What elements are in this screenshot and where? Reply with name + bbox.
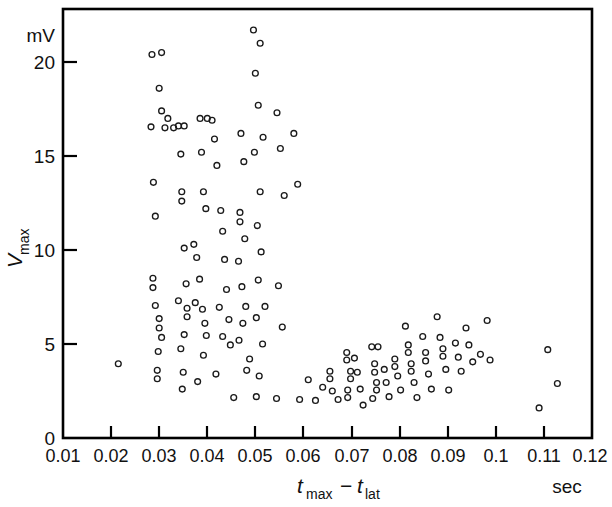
data-point bbox=[327, 376, 333, 382]
data-point bbox=[202, 320, 208, 326]
x-tick-label-0.1: 0.1 bbox=[483, 446, 508, 466]
data-point bbox=[154, 367, 160, 373]
data-point bbox=[443, 366, 449, 372]
data-point bbox=[374, 380, 380, 386]
data-point bbox=[335, 397, 341, 403]
data-point bbox=[220, 334, 226, 340]
data-point bbox=[466, 342, 472, 348]
x-tick-label-0.06: 0.06 bbox=[285, 446, 320, 466]
data-point bbox=[437, 335, 443, 341]
data-point bbox=[150, 275, 156, 281]
plot-svg: 20 15 10 5 0 mV V max 0.01 bbox=[0, 0, 612, 507]
data-point bbox=[231, 395, 237, 401]
data-point bbox=[297, 397, 303, 403]
data-point bbox=[180, 369, 186, 375]
data-point bbox=[352, 355, 358, 361]
data-point bbox=[458, 368, 464, 374]
data-point bbox=[176, 298, 182, 304]
data-point bbox=[178, 151, 184, 157]
x-axis-title-sub2: lat bbox=[365, 486, 380, 502]
data-point bbox=[403, 323, 409, 329]
data-point bbox=[372, 369, 378, 375]
data-point bbox=[216, 304, 222, 310]
data-point bbox=[446, 387, 452, 393]
x-axis-title-minus: − bbox=[340, 474, 352, 497]
data-point bbox=[274, 396, 280, 402]
data-point bbox=[179, 198, 185, 204]
x-tick-label-0.02: 0.02 bbox=[93, 446, 128, 466]
data-point bbox=[348, 376, 354, 382]
x-tick-label-0.12: 0.12 bbox=[572, 446, 607, 466]
x-unit-label: sec bbox=[552, 476, 582, 497]
data-point bbox=[344, 357, 350, 363]
data-points-layer bbox=[115, 27, 560, 411]
y-tick-label-10: 10 bbox=[34, 240, 55, 261]
data-point bbox=[181, 123, 187, 129]
data-point bbox=[428, 386, 434, 392]
data-point bbox=[226, 317, 232, 323]
data-point bbox=[201, 352, 207, 358]
data-point bbox=[195, 379, 201, 385]
data-point bbox=[254, 223, 260, 229]
data-point bbox=[242, 236, 248, 242]
data-point bbox=[251, 27, 257, 33]
x-axis-ticks bbox=[111, 426, 544, 438]
data-point bbox=[386, 394, 392, 400]
data-point bbox=[222, 257, 228, 263]
data-point bbox=[440, 346, 446, 352]
data-point bbox=[405, 350, 411, 356]
data-point bbox=[257, 189, 263, 195]
data-point bbox=[159, 108, 165, 114]
data-point bbox=[455, 354, 461, 360]
data-point bbox=[392, 364, 398, 370]
data-point bbox=[201, 189, 207, 195]
data-point bbox=[295, 181, 301, 187]
data-point bbox=[375, 344, 381, 350]
y-axis-title: V max bbox=[3, 229, 32, 268]
data-point bbox=[239, 284, 245, 290]
y-axis-tick-labels: 20 15 10 5 0 bbox=[34, 52, 55, 449]
data-point bbox=[277, 146, 283, 152]
data-point bbox=[237, 210, 243, 216]
data-point bbox=[470, 359, 476, 365]
data-point bbox=[184, 305, 190, 311]
data-point bbox=[203, 206, 209, 212]
data-point bbox=[434, 314, 440, 320]
data-point bbox=[156, 316, 162, 322]
x-tick-label-0.07: 0.07 bbox=[334, 446, 369, 466]
data-point bbox=[179, 189, 185, 195]
data-point bbox=[345, 387, 351, 393]
data-point bbox=[197, 116, 203, 122]
x-axis-title-t1: t bbox=[297, 474, 304, 497]
data-point bbox=[305, 377, 311, 383]
data-point bbox=[151, 179, 157, 185]
data-point bbox=[392, 356, 398, 362]
data-point bbox=[253, 394, 259, 400]
data-point bbox=[240, 320, 246, 326]
data-point bbox=[357, 386, 363, 392]
data-point bbox=[237, 219, 243, 225]
data-point bbox=[178, 346, 184, 352]
data-point bbox=[395, 373, 401, 379]
y-axis-title-sub: max bbox=[16, 229, 32, 255]
data-point bbox=[214, 163, 220, 169]
data-point bbox=[370, 396, 376, 402]
data-point bbox=[260, 134, 266, 140]
data-point bbox=[329, 388, 335, 394]
data-point bbox=[179, 386, 185, 392]
data-point bbox=[291, 131, 297, 137]
data-point bbox=[218, 208, 224, 214]
data-point bbox=[313, 398, 319, 404]
data-point bbox=[200, 306, 206, 312]
data-point bbox=[253, 315, 259, 321]
y-tick-label-15: 15 bbox=[34, 146, 55, 167]
data-point bbox=[156, 85, 162, 91]
data-point bbox=[181, 245, 187, 251]
data-point bbox=[381, 366, 387, 372]
data-point bbox=[227, 342, 233, 348]
data-point bbox=[279, 324, 285, 330]
data-point bbox=[184, 314, 190, 320]
x-axis-title: t max − t lat bbox=[297, 474, 380, 502]
data-point bbox=[191, 241, 197, 247]
data-point bbox=[155, 349, 161, 355]
